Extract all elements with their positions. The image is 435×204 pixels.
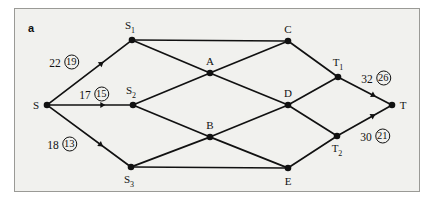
node-label-C: C	[284, 23, 291, 35]
graph-edge-S1-C	[135, 40, 285, 41]
edge-label-S-S2: 1715	[79, 87, 109, 102]
graph-node-C[interactable]	[285, 38, 292, 45]
edge-capacity-S-S1: 22	[49, 56, 61, 68]
graph-edge-S3-B	[134, 138, 207, 166]
edge-arrowhead-S-S2	[100, 102, 105, 108]
node-label-S2: S2	[126, 84, 136, 99]
graph-edge-C-T1	[291, 43, 336, 75]
node-label-T: T	[400, 99, 407, 111]
node-label-T2: T2	[332, 142, 343, 157]
edge-capacity-S-S3: 18	[47, 138, 59, 150]
edge-capacity-T2-T: 30	[360, 130, 372, 142]
graph-edge-S1-A	[135, 41, 207, 72]
graph-node-A[interactable]	[207, 70, 214, 77]
graph-node-S[interactable]	[44, 102, 51, 109]
node-label-S3: S3	[124, 173, 134, 188]
edge-label-T2-T: 3021	[360, 129, 390, 144]
node-label-T1: T1	[333, 56, 344, 71]
graph-edge-D-T1	[291, 79, 336, 104]
edge-label-S-S1: 2219	[49, 55, 79, 70]
edge-label-S-S3: 1813	[47, 137, 77, 152]
graph-edge-A-C	[213, 42, 285, 72]
node-label-S: S	[33, 99, 39, 111]
graph-edge-S3-E	[134, 167, 285, 168]
graph-edge-D-T2	[291, 107, 335, 135]
graph-edge-B-E	[213, 138, 285, 167]
graph-node-S1[interactable]	[129, 37, 136, 44]
graph-edge-S2-B	[136, 106, 207, 136]
edge-flow-T1-T: 26	[376, 71, 391, 86]
figure-container: a SS1S2S3ABCDET1T2T 22191715181332263021	[0, 0, 435, 204]
network-graph-canvas	[0, 0, 435, 204]
graph-edge-B-D	[213, 106, 285, 136]
node-label-E: E	[285, 175, 292, 187]
graph-node-B[interactable]	[207, 134, 214, 141]
graph-edge-E-T2	[291, 138, 335, 167]
edge-flow-S-S1: 19	[64, 55, 79, 70]
graph-edge-S2-A	[136, 74, 207, 104]
graph-node-S3[interactable]	[128, 164, 135, 171]
graph-node-T[interactable]	[389, 102, 396, 109]
graph-edge-A-D	[213, 74, 285, 104]
edge-flow-T2-T: 21	[375, 129, 390, 144]
edge-capacity-T1-T: 32	[361, 72, 373, 84]
graph-node-S2[interactable]	[130, 102, 137, 109]
edge-flow-S-S2: 15	[94, 87, 109, 102]
graph-node-T2[interactable]	[334, 133, 341, 140]
node-label-A: A	[206, 55, 214, 67]
node-label-B: B	[206, 119, 213, 131]
node-label-D: D	[284, 87, 292, 99]
graph-node-E[interactable]	[285, 165, 292, 172]
edge-capacity-S-S2: 17	[79, 88, 91, 100]
node-label-S1: S1	[125, 19, 135, 34]
edge-label-T1-T: 3226	[361, 71, 391, 86]
graph-node-D[interactable]	[285, 102, 292, 109]
graph-node-T1[interactable]	[335, 74, 342, 81]
edge-flow-S-S3: 13	[62, 137, 77, 152]
